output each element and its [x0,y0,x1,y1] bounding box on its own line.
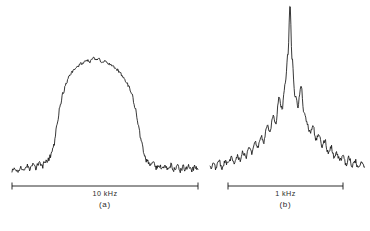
scale-bars [0,0,370,231]
scale-bar-a [12,183,198,190]
figure-container: 10 kHz (a) 1 kHz (b) [0,0,370,231]
scale-bar-b [228,183,343,190]
